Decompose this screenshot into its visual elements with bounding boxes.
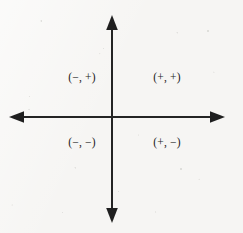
arrow-up-icon bbox=[106, 15, 118, 30]
coordinate-plane-figure: (−, +) (+, +) (−, −) (+, −) bbox=[0, 0, 243, 233]
arrow-down-icon bbox=[106, 208, 118, 223]
quadrant-label-ii: (−, +) bbox=[68, 72, 96, 84]
quadrant-label-iii: (−, −) bbox=[68, 137, 96, 149]
quadrant-label-iv: (+, −) bbox=[153, 137, 181, 149]
arrow-left-icon bbox=[9, 111, 24, 123]
arrow-right-icon bbox=[210, 111, 225, 123]
quadrant-label-i: (+, +) bbox=[153, 72, 181, 84]
axes-diagram bbox=[0, 0, 243, 233]
